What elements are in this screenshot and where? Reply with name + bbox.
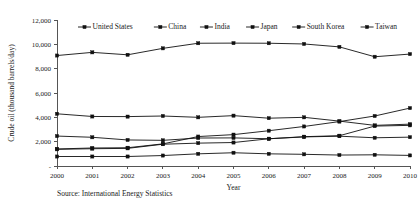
data-point — [338, 153, 341, 156]
data-point — [338, 45, 341, 48]
legend-swatch-marker — [297, 25, 300, 28]
x-tick-label: 2009 — [368, 172, 383, 180]
data-point — [408, 154, 411, 157]
legend-item-japan[interactable]: Japan — [246, 22, 278, 31]
data-point — [303, 125, 306, 128]
data-point — [161, 143, 164, 146]
data-point — [232, 141, 235, 144]
series-line — [57, 43, 410, 57]
data-point — [161, 47, 164, 50]
data-point — [55, 155, 58, 158]
data-point — [55, 148, 58, 151]
legend-item-china[interactable]: China — [154, 22, 187, 31]
y-tick-label: 12,000 — [32, 17, 52, 25]
data-point — [91, 115, 94, 118]
data-point — [91, 147, 94, 150]
legend-label: Taiwan — [375, 22, 397, 31]
data-point — [91, 136, 94, 139]
y-axis-title: Crude oil (thousand barrels/day) — [7, 44, 16, 142]
legend-swatch-marker — [83, 25, 86, 28]
data-point — [373, 153, 376, 156]
data-point — [267, 42, 270, 45]
data-point — [267, 152, 270, 155]
data-point — [126, 115, 129, 118]
y-tick-label: 6,000 — [35, 90, 51, 98]
data-point — [55, 134, 58, 137]
data-point — [408, 123, 411, 126]
data-point — [161, 114, 164, 117]
data-point — [408, 106, 411, 109]
x-tick-label: 2010 — [403, 172, 418, 180]
data-point — [126, 53, 129, 56]
x-tick-label: 2006 — [262, 172, 277, 180]
x-tick-label: 2001 — [85, 172, 100, 180]
x-tick-label: 2003 — [156, 172, 171, 180]
series-united-states — [55, 42, 411, 59]
legend-swatch-marker — [251, 25, 254, 28]
legend-swatch-marker — [159, 25, 162, 28]
chart-figure: -2,0004,0006,0008,00010,00012,0002000200… — [0, 0, 418, 211]
y-tick-label: 10,000 — [32, 41, 52, 49]
legend: United StatesChinaIndiaJapanSouth KoreaT… — [78, 22, 397, 31]
data-point — [303, 42, 306, 45]
data-point — [232, 136, 235, 139]
data-point — [161, 154, 164, 157]
legend-item-united-states[interactable]: United States — [78, 22, 133, 31]
x-tick-label: 2004 — [191, 172, 206, 180]
legend-item-taiwan[interactable]: Taiwan — [361, 22, 398, 31]
x-tick-label: 2007 — [297, 172, 312, 180]
legend-item-south-korea[interactable]: South Korea — [292, 22, 345, 31]
legend-label: Japan — [261, 22, 278, 31]
data-point — [408, 136, 411, 139]
data-point — [55, 54, 58, 57]
x-tick-label: 2000 — [50, 172, 65, 180]
y-tick-label: - — [49, 163, 52, 171]
series-taiwan — [55, 151, 411, 158]
data-point — [126, 155, 129, 158]
legend-label: South Korea — [307, 22, 345, 31]
data-point — [373, 136, 376, 139]
series-japan — [55, 112, 411, 127]
data-point — [232, 133, 235, 136]
data-point — [161, 139, 164, 142]
legend-label: China — [168, 22, 187, 31]
data-point — [338, 120, 341, 123]
x-tick-label: 2008 — [332, 172, 347, 180]
data-point — [91, 155, 94, 158]
data-point — [126, 138, 129, 141]
data-point — [197, 152, 200, 155]
data-point — [303, 135, 306, 138]
data-point — [126, 147, 129, 150]
data-point — [338, 135, 341, 138]
y-tick-label: 4,000 — [35, 114, 51, 122]
legend-swatch-marker — [365, 25, 368, 28]
y-tick-label: 8,000 — [35, 65, 51, 73]
data-point — [373, 114, 376, 117]
data-point — [408, 52, 411, 55]
x-tick-label: 2005 — [227, 172, 242, 180]
data-point — [232, 42, 235, 45]
data-point — [303, 116, 306, 119]
data-point — [197, 42, 200, 45]
data-point — [232, 151, 235, 154]
source-note: Source: International Energy Statistics — [57, 189, 172, 198]
line-chart: -2,0004,0006,0008,00010,00012,0002000200… — [0, 0, 418, 211]
data-point — [267, 137, 270, 140]
data-point — [303, 153, 306, 156]
legend-item-india[interactable]: India — [200, 22, 231, 31]
data-point — [373, 55, 376, 58]
y-tick-label: 2,000 — [35, 138, 51, 146]
data-point — [197, 116, 200, 119]
data-point — [373, 124, 376, 127]
x-axis-title: Year — [227, 183, 241, 192]
data-point — [197, 142, 200, 145]
data-point — [91, 51, 94, 54]
data-point — [55, 112, 58, 115]
legend-label: United States — [93, 22, 133, 31]
x-tick-label: 2002 — [121, 172, 136, 180]
data-point — [267, 117, 270, 120]
legend-label: India — [214, 22, 230, 31]
legend-swatch-marker — [205, 25, 208, 28]
data-point — [197, 136, 200, 139]
data-point — [267, 129, 270, 132]
